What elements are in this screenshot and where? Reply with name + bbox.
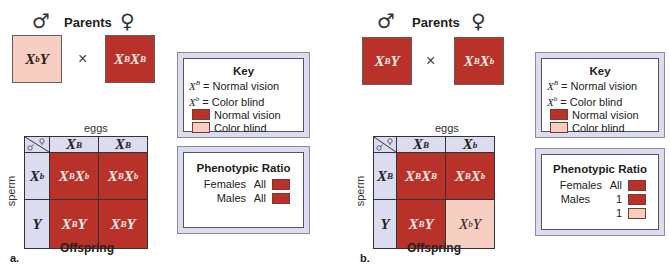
allele: X	[405, 168, 415, 185]
allele-y: Y	[40, 51, 49, 68]
allele-base: Y	[32, 216, 41, 233]
offspring-label: Offspring	[60, 241, 114, 255]
allele: X	[408, 216, 418, 233]
swatch-label: Color blind	[214, 122, 267, 134]
eggs-label: eggs	[435, 122, 459, 134]
sperm-header: Y	[25, 200, 49, 248]
allele: Y	[424, 216, 433, 233]
key-swatch-colorblind: Color blind	[184, 122, 303, 135]
ratio-value: 1	[594, 192, 622, 206]
allele-sup: B	[387, 171, 393, 181]
female-symbol: ♀	[471, 11, 486, 31]
allele: X	[61, 216, 71, 233]
ratio-row-females: FemalesAll	[542, 178, 658, 192]
allele: X	[547, 96, 554, 108]
normal-vision-swatch	[272, 193, 290, 204]
key-box: Key XB = Normal vision Xb = Color blind …	[177, 52, 310, 138]
sex-symbols-diagonal-icon	[25, 137, 49, 152]
allele-sup-2: B	[140, 54, 146, 64]
sperm-header: XB	[374, 153, 396, 199]
allele: X	[189, 96, 196, 108]
ratio-row-males: MalesAll	[184, 191, 303, 205]
ratio-value: All	[606, 178, 622, 192]
cross-symbol: ×	[426, 52, 435, 70]
allele: X	[455, 168, 465, 185]
ratio-label: Males	[184, 191, 246, 205]
allele-sup: B	[76, 140, 82, 150]
allele: X	[471, 168, 481, 185]
allele-base: X	[413, 136, 423, 153]
key-swatch-colorblind: Color blind	[542, 122, 658, 135]
ratio-value: All	[250, 177, 266, 191]
allele: X	[59, 168, 69, 185]
parents-label: Parents	[412, 15, 460, 30]
allele: X	[75, 168, 85, 185]
allele: X	[547, 80, 554, 92]
phenotypic-ratio-box: Phenotypic Ratio FemalesAll Males1 1	[535, 148, 665, 236]
offspring-label: Offspring	[407, 241, 461, 255]
sex-symbols-diagonal-icon	[374, 137, 396, 152]
allele-base: Y	[380, 216, 389, 233]
allele-base: X	[66, 136, 76, 153]
sperm-header: Xb	[25, 153, 49, 199]
color-blind-swatch	[192, 122, 210, 133]
punnett-square: XB Xb XB XBXB XBXb Y XBY XbY	[373, 136, 495, 249]
key-line-colorblind: Xb = Color blind	[184, 93, 303, 109]
allele-base: X	[464, 53, 474, 70]
key-swatch-normal: Normal vision	[542, 109, 658, 122]
offspring-cell: XBXb	[50, 153, 98, 199]
punnett-square: XB XB Xb XBXb XBXb Y XBY XBY	[24, 136, 148, 249]
key-box: Key XB = Normal vision Xb = Color blind …	[535, 52, 665, 138]
allele-base: X	[374, 53, 384, 70]
offspring-cell: XBXB	[397, 153, 445, 199]
sperm-label: sperm	[5, 176, 17, 207]
allele-sup: B	[423, 140, 429, 150]
ratio-title: Phenotypic Ratio	[184, 162, 303, 174]
punnett-corner	[25, 137, 49, 152]
color-blind-swatch	[628, 208, 646, 219]
cross-symbol: ×	[78, 50, 87, 68]
ratio-value: All	[250, 191, 266, 205]
punnett-corner	[374, 137, 396, 152]
ratio-inner: Phenotypic Ratio FemalesAll MalesAll	[183, 152, 304, 228]
allele-base: X	[114, 51, 124, 68]
normal-vision-swatch	[192, 109, 210, 120]
normal-vision-swatch	[628, 180, 646, 191]
allele-sup: b	[134, 171, 139, 181]
panel-a: ♂ Parents ♀ XbY × XBXB eggs sperm XB XB …	[0, 0, 335, 264]
offspring-cell: XBXb	[446, 153, 494, 199]
allele-sup: b	[85, 171, 90, 181]
female-parent-genotype: XBXb	[454, 37, 504, 85]
allele-base: X	[115, 136, 125, 153]
phenotypic-ratio-box: Phenotypic Ratio FemalesAll MalesAll	[177, 146, 310, 234]
eggs-label: eggs	[84, 122, 108, 134]
allele-sup: b	[481, 171, 486, 181]
key-line-normal: XB = Normal vision	[184, 77, 303, 93]
key-inner: Key XB = Normal vision Xb = Color blind …	[541, 58, 659, 132]
allele: X	[108, 168, 118, 185]
allele: Y	[473, 216, 481, 233]
allele: X	[124, 168, 134, 185]
allele: Y	[77, 216, 86, 233]
allele-base-2: X	[130, 51, 140, 68]
allele-base-2: X	[480, 53, 490, 70]
allele-sup-2: b	[490, 56, 495, 66]
male-symbol: ♂	[377, 11, 395, 31]
allele-sup: B	[125, 140, 131, 150]
key-text: = Normal vision	[558, 80, 637, 92]
key-text: = Color blind	[199, 96, 264, 108]
key-inner: Key XB = Normal vision Xb = Color blind …	[183, 58, 304, 132]
normal-vision-swatch	[550, 109, 568, 120]
key-swatch-normal: Normal vision	[184, 109, 303, 122]
allele-base: X	[30, 168, 40, 185]
allele: Y	[126, 216, 135, 233]
key-title: Key	[542, 65, 658, 77]
swatch-label: Color blind	[572, 122, 625, 134]
female-symbol: ♀	[120, 11, 135, 31]
panel-letter: a.	[10, 252, 19, 264]
color-blind-swatch	[550, 122, 568, 133]
male-symbol: ♂	[32, 11, 50, 31]
allele-base: X	[463, 136, 473, 153]
allele: X	[189, 80, 196, 92]
ratio-row-males: Males1	[542, 192, 658, 206]
